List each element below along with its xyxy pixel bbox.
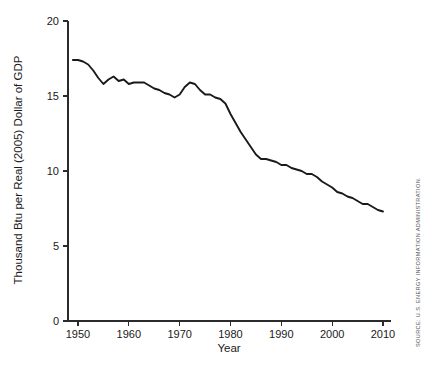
y-tick-label: 0 xyxy=(53,315,59,327)
x-tick-label: 1970 xyxy=(167,328,191,340)
x-tick-label: 1960 xyxy=(117,328,141,340)
y-axis-tick-labels: 05101520 xyxy=(47,15,59,327)
y-tick-label: 10 xyxy=(47,165,59,177)
chart-canvas: Thousand Btu per Real (2005) Dollar of G… xyxy=(0,0,434,371)
energy-intensity-chart: Thousand Btu per Real (2005) Dollar of G… xyxy=(0,0,434,371)
source-note: SOURCE: U.S. ENERGY INFORMATION ADMINIST… xyxy=(415,177,421,347)
y-axis-title: Thousand Btu per Real (2005) Dollar of G… xyxy=(12,55,24,284)
y-tick-label: 5 xyxy=(53,240,59,252)
y-tick-label: 20 xyxy=(47,15,59,27)
y-axis-tick-marks xyxy=(63,21,68,321)
data-series-group xyxy=(73,60,383,212)
x-axis-title: Year xyxy=(217,342,240,354)
x-tick-label: 2000 xyxy=(320,328,344,340)
x-tick-label: 1980 xyxy=(218,328,242,340)
x-tick-label: 2010 xyxy=(371,328,395,340)
x-axis-tick-labels: 1950196019701980199020002010 xyxy=(66,328,395,340)
y-tick-label: 15 xyxy=(47,90,59,102)
x-axis-tick-marks xyxy=(78,321,383,326)
x-tick-label: 1990 xyxy=(269,328,293,340)
x-tick-label: 1950 xyxy=(66,328,90,340)
series-line-energy-intensity xyxy=(73,60,383,212)
